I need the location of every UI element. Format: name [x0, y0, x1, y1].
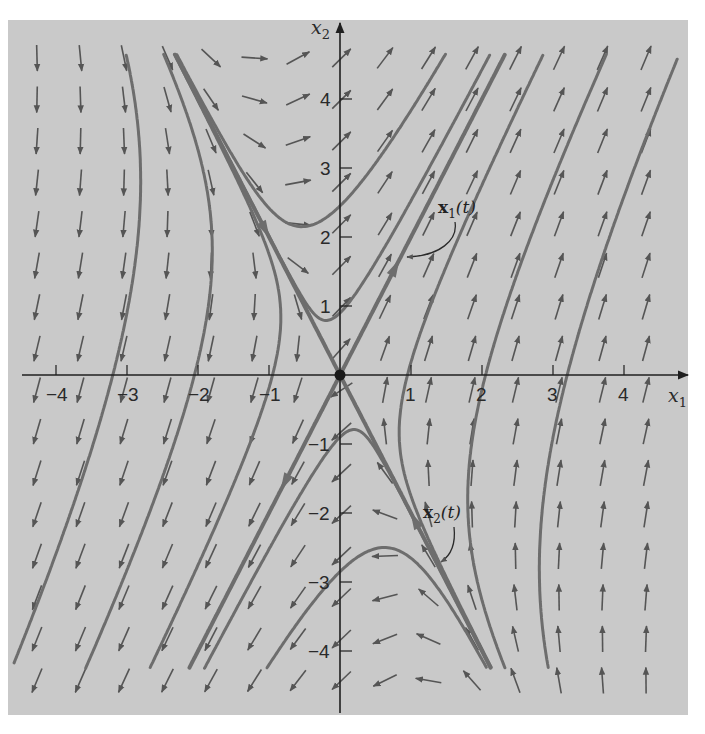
field-arrow: [253, 253, 256, 279]
field-arrow: [644, 502, 648, 528]
field-arrow: [642, 170, 651, 194]
phase-portrait-chart: −4−3−2−11234−4−3−2−11234 x1 x2 x1(t) x2(…: [0, 0, 705, 734]
trajectories: [14, 54, 677, 668]
field-arrow: [601, 502, 604, 528]
field-arrow: [645, 585, 647, 611]
x2t-pointer-arrow: [441, 527, 454, 562]
x1-axis-label: x1: [668, 384, 687, 410]
field-arrow: [248, 586, 261, 609]
trajectory: [539, 59, 677, 667]
y-tick-label: −1: [308, 434, 330, 455]
field-arrow: [162, 669, 174, 692]
y-tick-label: 4: [320, 89, 331, 110]
field-arrow: [644, 543, 647, 569]
field-arrow: [373, 634, 397, 644]
field-arrow: [76, 544, 85, 568]
field-arrow: [206, 503, 216, 527]
field-arrow: [558, 502, 561, 528]
field-arrow: [602, 585, 603, 611]
field-arrow: [425, 336, 433, 361]
x-tick-label: 3: [547, 384, 558, 405]
x-tick-label: −2: [188, 384, 210, 405]
field-arrow: [644, 460, 649, 486]
field-arrow: [384, 419, 387, 445]
field-arrow: [79, 45, 81, 71]
field-arrow: [37, 87, 38, 113]
field-arrow: [297, 336, 300, 362]
field-arrow: [377, 48, 393, 69]
field-arrow: [377, 89, 392, 110]
field-arrow: [463, 671, 480, 691]
field-arrow: [77, 377, 84, 402]
field-arrow: [417, 634, 441, 644]
field-arrow: [249, 461, 259, 485]
axes: [22, 23, 688, 713]
field-arrow: [249, 503, 260, 526]
field-arrow: [35, 253, 40, 279]
field-arrow: [332, 672, 351, 690]
field-arrow: [164, 419, 172, 444]
field-arrow: [288, 258, 309, 274]
field-arrow: [291, 545, 305, 567]
field-arrow: [428, 460, 429, 486]
field-arrow: [76, 585, 86, 609]
field-arrow: [422, 130, 435, 153]
field-arrow: [332, 256, 350, 274]
field-arrow: [373, 675, 396, 686]
field-arrow: [167, 170, 168, 196]
field-arrow: [378, 213, 392, 235]
field-arrow: [34, 294, 39, 319]
field-arrow: [599, 336, 606, 361]
field-arrow: [642, 295, 649, 320]
field-arrow: [514, 585, 517, 611]
field-arrow: [515, 543, 516, 569]
field-arrow: [332, 132, 350, 150]
field-arrow: [120, 419, 128, 444]
trajectory: [468, 54, 607, 667]
field-arrow: [287, 52, 310, 64]
field-arrow: [555, 336, 562, 361]
field-arrow: [76, 502, 85, 527]
field-arrow: [286, 94, 310, 105]
field-arrow: [36, 128, 38, 154]
field-arrow: [598, 170, 607, 194]
field-arrow: [164, 87, 171, 112]
field-arrow: [33, 419, 40, 444]
field-arrow: [34, 377, 41, 402]
field-arrow: [513, 419, 518, 445]
field-arrow: [332, 298, 350, 317]
x-tick-label: 2: [476, 384, 487, 405]
field-arrow: [78, 336, 84, 361]
field-arrow: [332, 547, 351, 565]
trajectory: [176, 55, 490, 320]
field-arrow: [122, 253, 126, 279]
field-arrow: [123, 211, 125, 237]
field-arrow: [80, 170, 82, 196]
field-arrow: [468, 585, 476, 610]
x-tick-label: 4: [618, 384, 629, 405]
field-arrow: [600, 419, 605, 444]
field-arrow: [555, 253, 563, 278]
trajectory-direction-arrow: [281, 472, 294, 490]
field-arrow: [512, 336, 519, 361]
stable-separatrix: [175, 55, 340, 375]
field-arrow: [558, 543, 559, 569]
field-arrow: [600, 460, 604, 486]
field-arrow: [32, 627, 42, 651]
field-arrow: [165, 294, 169, 320]
field-arrow: [252, 336, 257, 362]
field-arrow: [248, 669, 262, 691]
y-tick-label: 1: [320, 296, 331, 317]
field-arrow: [332, 173, 350, 191]
field-arrow: [510, 46, 522, 69]
field-arrow: [332, 215, 350, 233]
field-arrow: [512, 377, 518, 402]
field-arrow: [643, 336, 650, 361]
field-arrow: [372, 555, 398, 556]
field-arrow: [643, 419, 649, 444]
field-arrow: [427, 419, 430, 445]
field-arrow: [557, 460, 561, 486]
field-arrow: [381, 336, 390, 360]
field-arrow: [123, 128, 124, 154]
field-arrow: [80, 87, 81, 113]
